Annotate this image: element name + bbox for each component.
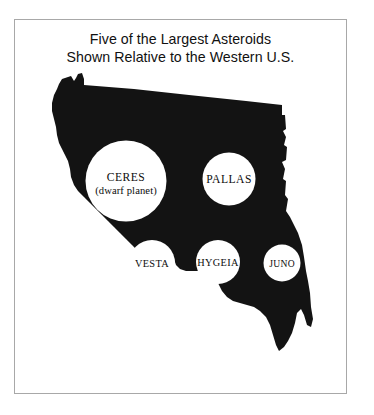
- pacific-coast-notch-lower: [52, 147, 61, 171]
- asteroid-circle-vesta[interactable]: [129, 240, 175, 286]
- map-stage: CERES (dwarf planet) PALLAS VESTA HYGEIA…: [14, 19, 347, 394]
- asteroid-circle-juno[interactable]: [264, 245, 301, 282]
- western-us-landmass-shape: [52, 73, 313, 351]
- asteroid-circle-pallas[interactable]: [203, 153, 256, 206]
- asteroid-circle-hygeia[interactable]: [196, 240, 240, 284]
- asteroid-circle-ceres[interactable]: [86, 141, 167, 222]
- asteroid-size-comparison-figure: Five of the Largest Asteroids Shown Rela…: [0, 0, 374, 415]
- pacific-coast-notch-upper: [47, 115, 54, 143]
